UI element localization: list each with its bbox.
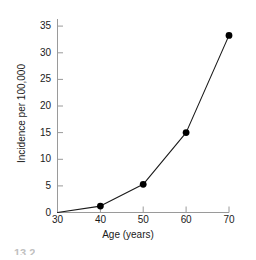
x-tick-label-50: 50 [129, 215, 157, 225]
data-markers [97, 32, 232, 210]
y-axis-title: Incidence per 100,000 [16, 44, 27, 184]
data-point-70 [226, 32, 233, 39]
caption-fragment: 13.2 [14, 247, 35, 255]
x-tick-label-60: 60 [172, 215, 200, 225]
x-tick-label-70: 70 [215, 215, 243, 225]
x-axis-title: Age (years) [0, 229, 256, 240]
data-point-50 [140, 181, 147, 188]
data-point-60 [183, 129, 190, 136]
x-axis-ticks [58, 207, 230, 213]
data-point-40 [97, 203, 104, 210]
figure-panel: 0 5 10 15 20 25 30 35 30 40 50 60 70 Age… [0, 0, 256, 260]
y-axis-title-wrap: Incidence per 100,000 [6, 0, 22, 260]
x-tick-label-40: 40 [86, 215, 114, 225]
y-axis-ticks [58, 26, 64, 212]
x-tick-label-30: 30 [44, 215, 72, 225]
